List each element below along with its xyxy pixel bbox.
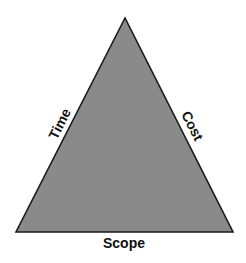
scope-label: Scope: [103, 235, 145, 251]
triple-constraint-diagram: Time Cost Scope: [0, 0, 246, 263]
